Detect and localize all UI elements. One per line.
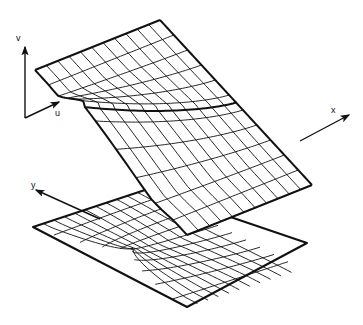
surface-occluder xyxy=(35,20,312,235)
cusp-catastrophe-diagram: v u x y xyxy=(0,0,363,325)
figure-root: v u x y xyxy=(0,0,363,325)
x-axis-label: x xyxy=(331,105,336,115)
u-axis-label: u xyxy=(55,108,60,118)
u-axis-line xyxy=(25,102,59,118)
x-axis-line xyxy=(300,115,349,141)
v-axis-label: v xyxy=(16,33,21,43)
plane-grid-line-u xyxy=(43,224,197,304)
plane-grid-line-v xyxy=(132,233,232,253)
y-axis-label: y xyxy=(31,180,36,190)
fold-surface-group xyxy=(35,20,312,235)
